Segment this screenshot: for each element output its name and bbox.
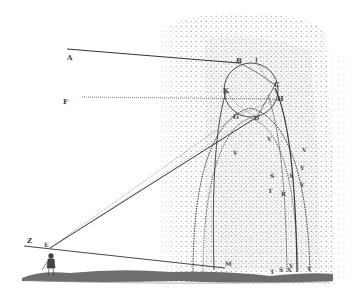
label-T1: T	[268, 187, 273, 194]
label-S2: S	[279, 266, 283, 273]
label-F: F	[63, 97, 68, 106]
label-V4: V	[288, 262, 294, 269]
label-Y2: Y	[299, 164, 305, 171]
label-H: H	[277, 94, 284, 103]
label-V3: V	[301, 146, 307, 153]
label-D: D	[254, 114, 259, 121]
label-K: K	[223, 86, 230, 95]
rainbow-diagram: A F B I C H K G D Z E M V V V S X Y Y T …	[0, 0, 354, 305]
label-T2: T	[270, 268, 275, 275]
label-V2: V	[266, 135, 272, 142]
label-G: G	[233, 112, 239, 121]
label-A: A	[66, 53, 73, 62]
label-V1: V	[232, 149, 238, 156]
label-X1: X	[289, 172, 294, 179]
label-B: B	[236, 56, 242, 65]
label-Z: Z	[27, 236, 32, 245]
rain-cloud-stipple	[150, 13, 345, 290]
label-M: M	[225, 260, 232, 267]
label-C: C	[274, 80, 280, 89]
label-S1: S	[270, 172, 274, 179]
label-Y3: Y	[306, 265, 312, 272]
label-E: E	[44, 241, 49, 248]
label-Y1: Y	[299, 181, 305, 188]
label-I: I	[255, 56, 258, 63]
